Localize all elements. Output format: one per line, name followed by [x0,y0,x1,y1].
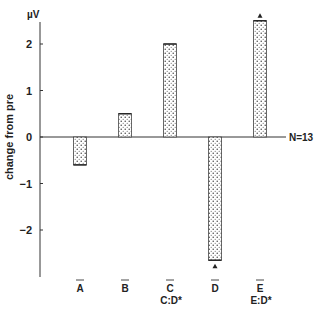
category-label-c: C [166,283,173,294]
category-labels: ABCC:D*DEE:D* [76,280,272,306]
category-sublabel: E:D* [250,295,271,306]
y-tick-label: −2 [19,224,32,236]
bar-b [119,114,132,137]
bar-a [74,137,87,165]
category-label-a: A [76,283,83,294]
category-label-e: E [257,283,264,294]
bar-c [164,44,177,137]
y-tick-label: 2 [26,38,32,50]
category-label-b: B [121,283,128,294]
y-tick-label: 1 [26,85,32,97]
triangle-marker-icon [213,264,218,269]
y-ticks: 210−1−2 [19,38,43,236]
bars [74,13,267,268]
y-tick-label: −1 [19,178,32,190]
bar-d [209,137,222,260]
bar-e [254,21,267,137]
category-sublabel: C:D* [160,295,182,306]
y-unit-label: µV [27,9,40,20]
sample-size-label: N=13 [289,132,314,143]
triangle-marker-icon [258,13,263,18]
y-axis-title: change from pre [3,94,15,180]
y-tick-label: 0 [26,131,32,143]
bar-chart: µV change from pre 210−1−2 N=13 ABCC:D*D… [0,0,323,310]
category-label-d: D [211,283,218,294]
